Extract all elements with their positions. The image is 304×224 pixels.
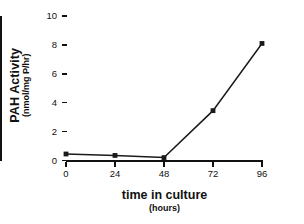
x-tick-label: 96 (249, 168, 275, 179)
y-axis-units-label: (nmol/mg P/hr) (22, 53, 31, 117)
y-axis-title: (nmol/mg P/hr) PAH Activity (0, 0, 40, 170)
x-axis-title: time in culture (hours) (66, 188, 263, 214)
y-tick-mark (62, 15, 67, 17)
x-tick-mark (163, 162, 165, 167)
y-tick-label: 10 (33, 10, 57, 21)
y-tick-label: 2 (33, 126, 57, 137)
series-markers (64, 41, 265, 160)
y-tick-mark (62, 73, 67, 75)
chart-figure: (nmol/mg P/hr) PAH Activity 0246810 0244… (0, 0, 304, 224)
x-axis-main-label: time in culture (66, 188, 263, 202)
x-tick-mark (212, 162, 214, 167)
y-axis-main-label: PAH Activity (9, 48, 22, 123)
y-tick-label: 4 (33, 97, 57, 108)
x-tick-label: 48 (151, 168, 177, 179)
x-tick-mark (261, 162, 263, 167)
x-tick-label: 0 (53, 168, 79, 179)
y-tick-mark (62, 131, 67, 133)
x-tick-mark (65, 162, 67, 167)
x-tick-label: 72 (200, 168, 226, 179)
y-tick-label: 8 (33, 39, 57, 50)
y-tick-mark (62, 44, 67, 46)
y-axis-line (0, 16, 2, 161)
data-point-marker (260, 41, 265, 46)
y-tick-label: 0 (33, 155, 57, 166)
data-point-marker (211, 108, 216, 113)
data-point-marker (64, 152, 69, 157)
x-axis-units-label: (hours) (66, 203, 263, 213)
y-tick-label: 6 (33, 68, 57, 79)
data-point-marker (113, 153, 118, 158)
x-tick-mark (114, 162, 116, 167)
x-tick-label: 24 (102, 168, 128, 179)
y-tick-mark (62, 102, 67, 104)
series-line (66, 43, 262, 157)
